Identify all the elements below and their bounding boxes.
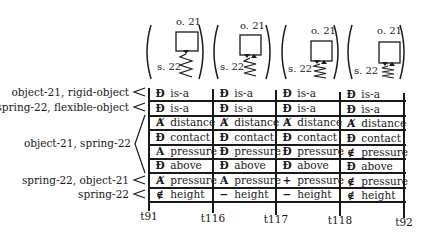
state-diagram-2: o. 21 s. 22: [210, 0, 274, 86]
table-cell: Ⱥ pressure: [153, 173, 217, 187]
table-cell: Ɖ contact: [217, 130, 274, 144]
table-cell: ∉ height: [153, 187, 204, 201]
table-cell: A pressure: [217, 173, 281, 187]
table-cell: Ɖ above: [344, 159, 393, 173]
time-label-t116: t116: [201, 212, 225, 224]
table-cell: Ɖ is-a: [217, 86, 253, 100]
table-cell: ∉ height: [344, 188, 395, 202]
table-cell: Ⱥ distance: [217, 115, 279, 129]
group-brackets: [128, 84, 148, 204]
table-cell: Ⱥ distance: [344, 116, 406, 130]
table-cell: Ɖ is-a: [344, 87, 380, 101]
table-cell: Ɖ contact: [280, 130, 337, 144]
box-on-spring-icon: [210, 0, 274, 86]
row-label-spring-flexible: spring-22, flexible-object: [0, 101, 129, 113]
time-label-t91: t91: [140, 210, 158, 222]
table-cell: − height: [280, 187, 331, 201]
time-label-t92: t92: [395, 216, 413, 228]
object-label: o. 21: [240, 20, 265, 31]
object-label: o. 21: [176, 16, 201, 27]
spring-label: s. 22: [157, 61, 181, 72]
table-cell: Ɖ pressure: [217, 144, 281, 158]
table-cell: Ɖ pressure: [280, 144, 344, 158]
table-cell: ∉ pressure: [344, 145, 408, 159]
spring-label: s. 22: [220, 61, 244, 72]
time-axis-t91: [148, 88, 150, 211]
row-label-spring: spring-22: [78, 188, 129, 200]
row-label-object-spring: object-21, spring-22: [24, 137, 131, 149]
table-cell: Ⱥ distance: [280, 115, 342, 129]
row-label-object-rigid: object-21, rigid-object: [11, 86, 129, 98]
table-cell: − height: [217, 187, 268, 201]
state-diagram-4: o. 21 s. 22: [344, 0, 408, 86]
time-label-t117: t117: [264, 213, 288, 225]
table-cell: ∉ pressure: [344, 174, 408, 188]
table-cell: Ɖ contact: [344, 131, 401, 145]
table-cell: Ɖ is-a: [280, 86, 316, 100]
table-cell: Ⱥ distance: [153, 115, 215, 129]
spring-label: s. 22: [288, 63, 312, 74]
row-label-spring-object: spring-22, object-21: [22, 174, 129, 186]
table-cell: Ɖ is-a: [280, 101, 316, 115]
table-cell: + pressure: [280, 173, 344, 187]
state-diagram-3: o. 21 s. 22: [278, 0, 342, 86]
table-cell: Ɖ above: [217, 158, 266, 172]
spring-label: s. 22: [354, 65, 378, 76]
table-cell: Ɖ above: [153, 158, 202, 172]
time-label-t118: t118: [328, 214, 352, 226]
table-cell: Ɖ is-a: [217, 101, 253, 115]
object-label: o. 21: [377, 25, 402, 36]
table-cell: A pressure: [153, 144, 217, 158]
table-cell: Ɖ contact: [153, 130, 210, 144]
table-cell: Ɖ is-a: [153, 86, 189, 100]
object-label: o. 21: [311, 25, 336, 36]
table-cell: Ɖ is-a: [153, 101, 189, 115]
box-on-spring-icon: [143, 0, 207, 86]
state-diagram-1: o. 21 s. 22: [143, 0, 207, 86]
table-cell: Ɖ is-a: [344, 102, 380, 116]
table-cell: Ɖ above: [280, 158, 329, 172]
